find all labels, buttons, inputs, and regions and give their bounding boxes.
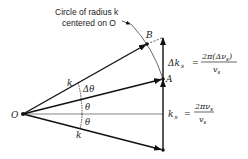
delta-ks-equation: Δks = 2π(Δνs) vs bbox=[167, 52, 237, 75]
theta-lower-arc bbox=[80, 114, 82, 129]
wave-vector-diagram: Circle of radius k centered on O O B A k… bbox=[0, 0, 248, 159]
ks-equation: ks = 2πνs vs bbox=[168, 102, 214, 125]
label-a: A bbox=[165, 74, 173, 84]
caption-pointer-arrow bbox=[122, 21, 130, 24]
label-delta-theta: Δθ bbox=[82, 84, 94, 94]
delta-ks-numerator: 2π(Δνs) bbox=[201, 52, 232, 62]
theta-upper-arc bbox=[81, 100, 82, 114]
label-k-lower: k bbox=[76, 130, 81, 140]
bottom-point bbox=[161, 148, 165, 152]
ks-denominator: vs bbox=[199, 115, 207, 125]
label-theta-lower: θ bbox=[85, 117, 90, 127]
ks-equals: = bbox=[184, 109, 191, 118]
ks-numerator: 2πνs bbox=[194, 102, 213, 112]
origin-point bbox=[21, 112, 25, 116]
delta-ks-equals: = bbox=[192, 58, 199, 67]
label-b: B bbox=[145, 30, 153, 40]
delta-ks-denominator: vs bbox=[213, 65, 221, 75]
point-b bbox=[145, 42, 149, 46]
point-a bbox=[161, 77, 165, 81]
delta-ks-lhs: Δks bbox=[167, 58, 184, 69]
label-k-upper: k bbox=[67, 78, 72, 88]
label-theta-upper: θ bbox=[85, 102, 90, 112]
caption-line-2: centered on O bbox=[62, 18, 116, 28]
caption-line-1: Circle of radius k bbox=[55, 7, 119, 17]
vector-o-to-bottom bbox=[23, 114, 161, 150]
delta-theta-arc bbox=[78, 83, 81, 99]
ks-lhs: ks bbox=[168, 109, 178, 120]
label-origin: O bbox=[11, 110, 19, 120]
